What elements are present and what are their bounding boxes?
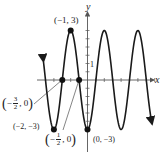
point-label-zero-right: (−12, 0) (45, 132, 76, 147)
fraction: 12 (56, 132, 62, 147)
point-label-max: (−1, 3) (54, 16, 79, 25)
point-label-min-left: (−2, −3) (13, 123, 39, 131)
y-tick-label: 1 (90, 61, 94, 69)
fraction: 32 (13, 96, 19, 111)
leader-line-right (63, 80, 79, 130)
point-min-origin (85, 127, 91, 133)
paren-close: ) (28, 96, 33, 111)
point-zero-left (59, 77, 65, 83)
point-label-zero-left: (−32, 0) (2, 96, 33, 111)
paren-close: ) (71, 132, 76, 147)
point-zero-right (76, 77, 82, 83)
point-max (68, 28, 74, 34)
point-label-min-origin: (0, −3) (93, 136, 115, 144)
graph-canvas (0, 0, 162, 155)
x-axis-label: x (155, 75, 159, 85)
y-axis-label: y (86, 2, 90, 12)
